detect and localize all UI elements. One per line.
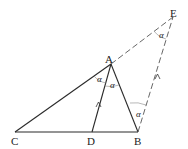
point-label-d: D (87, 135, 95, 147)
segment-ab (111, 64, 138, 132)
segment-be-dashed (138, 17, 173, 132)
angle-arc-b (130, 103, 146, 105)
angle-label-a-right: α (110, 80, 115, 90)
angle-label-a-left: α (97, 74, 102, 84)
geometry-diagram: α α α α A B C D E (0, 0, 188, 149)
angle-label-e: α (159, 30, 164, 40)
point-label-c: C (11, 135, 18, 147)
point-label-e: E (170, 7, 177, 19)
segment-ae-dashed (111, 17, 173, 64)
point-label-a: A (105, 53, 113, 65)
point-label-b: B (134, 135, 141, 147)
angle-label-b: α (136, 109, 141, 119)
